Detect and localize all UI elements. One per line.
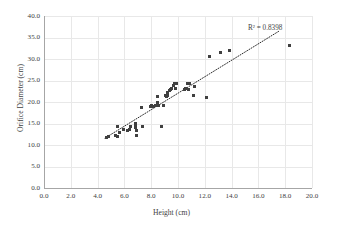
data-point xyxy=(228,49,231,52)
trendline xyxy=(44,16,312,188)
data-point xyxy=(162,104,165,107)
data-point xyxy=(187,88,190,91)
data-point xyxy=(188,82,191,85)
plot-area xyxy=(44,16,312,188)
x-tick-label: 20.0 xyxy=(297,193,327,200)
data-point xyxy=(116,125,119,128)
x-tick-label: 8.0 xyxy=(136,193,166,200)
x-axis-title: Height (cm) xyxy=(0,208,343,217)
y-axis-title: Orifice Diameter (cm) xyxy=(15,28,27,168)
x-axis-line xyxy=(44,188,312,189)
y-tick-label: 40.0 xyxy=(14,13,40,20)
data-point xyxy=(118,131,121,134)
data-point xyxy=(135,134,138,137)
r-squared-annotation: R² = 0.8398 xyxy=(248,24,282,32)
y-axis-line xyxy=(44,16,45,189)
x-tick-label: 14.0 xyxy=(217,193,247,200)
x-tick-label: 0.0 xyxy=(29,193,59,200)
data-point xyxy=(160,125,163,128)
data-point xyxy=(192,94,195,97)
data-point xyxy=(193,85,196,88)
data-point xyxy=(166,94,169,97)
gridline-vertical xyxy=(312,16,313,188)
x-tick-label: 18.0 xyxy=(270,193,300,200)
data-point xyxy=(157,104,160,107)
data-point xyxy=(288,44,291,47)
data-point xyxy=(129,125,132,128)
x-tick-label: 2.0 xyxy=(56,193,86,200)
data-point xyxy=(135,129,138,132)
x-tick-label: 10.0 xyxy=(163,193,193,200)
data-point xyxy=(107,135,110,138)
x-tick-label: 16.0 xyxy=(243,193,273,200)
data-point xyxy=(141,125,144,128)
data-point xyxy=(156,95,159,98)
y-tick-label: 0.0 xyxy=(14,185,40,192)
x-tick-label: 4.0 xyxy=(83,193,113,200)
data-point xyxy=(122,128,125,131)
data-point xyxy=(208,55,211,58)
y-axis-title-wrapper: Orifice Diameter (cm) xyxy=(15,28,27,168)
data-point xyxy=(175,82,178,85)
data-point xyxy=(128,128,131,131)
x-tick-label: 6.0 xyxy=(109,193,139,200)
data-point xyxy=(116,135,119,138)
data-point xyxy=(140,106,143,109)
data-point xyxy=(174,87,177,90)
x-tick-label: 12.0 xyxy=(190,193,220,200)
data-point xyxy=(205,96,208,99)
data-point xyxy=(219,51,222,54)
scatter-chart: 0.05.010.015.020.025.030.035.040.0 0.02.… xyxy=(0,0,343,229)
